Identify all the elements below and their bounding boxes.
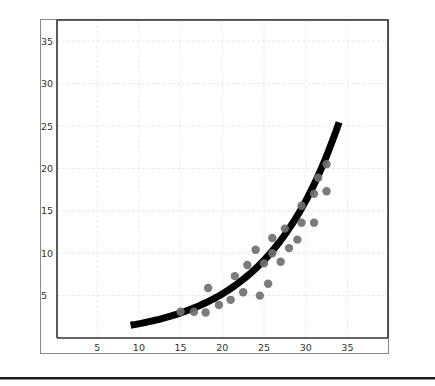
x-tick-label: 25	[258, 342, 270, 353]
y-tick-label: 20	[41, 163, 53, 174]
y-tick-label: 15	[41, 205, 53, 216]
data-point	[310, 218, 318, 226]
x-tick-label: 10	[133, 342, 145, 353]
x-tick-label: 35	[341, 342, 353, 353]
y-axis-tick-labels: 5101520253035	[41, 36, 53, 301]
data-point	[285, 244, 293, 252]
outer-border	[41, 20, 389, 354]
y-tick-label: 35	[41, 36, 53, 47]
data-point	[190, 308, 198, 316]
y-tick-label: 30	[41, 78, 53, 89]
divider-line	[0, 377, 435, 380]
data-point	[243, 261, 251, 269]
exponential-fit-line	[131, 122, 340, 325]
data-point	[268, 234, 276, 242]
y-tick-label: 25	[41, 121, 53, 132]
data-point	[251, 246, 259, 254]
x-tick-label: 5	[94, 342, 100, 353]
y-tick-label: 10	[41, 248, 53, 259]
data-point	[297, 218, 305, 226]
bottom-divider-rule	[0, 377, 435, 380]
data-point	[256, 291, 264, 299]
data-point	[264, 280, 272, 288]
y-tick-label: 5	[41, 290, 47, 301]
scatter-points	[176, 160, 330, 317]
data-point	[268, 249, 276, 257]
data-point	[215, 301, 223, 309]
x-tick-label: 15	[175, 342, 187, 353]
data-point	[239, 288, 247, 296]
exponential-scatter-chart: 5101520253035 5101520253035	[0, 0, 435, 386]
data-point	[322, 187, 330, 195]
data-point	[201, 308, 209, 316]
x-tick-label: 30	[300, 342, 312, 353]
data-point	[293, 235, 301, 243]
data-point	[231, 272, 239, 280]
data-point	[310, 190, 318, 198]
x-tick-label: 20	[216, 342, 228, 353]
data-point	[276, 257, 284, 265]
data-point	[297, 202, 305, 210]
data-point	[260, 259, 268, 267]
data-point	[204, 284, 212, 292]
fit-curve	[131, 122, 340, 325]
data-point	[322, 160, 330, 168]
data-point	[281, 224, 289, 232]
data-point	[314, 174, 322, 182]
data-point	[176, 308, 184, 316]
x-axis-tick-labels: 5101520253035	[94, 342, 353, 353]
outer-frame	[41, 20, 389, 354]
data-point	[226, 296, 234, 304]
